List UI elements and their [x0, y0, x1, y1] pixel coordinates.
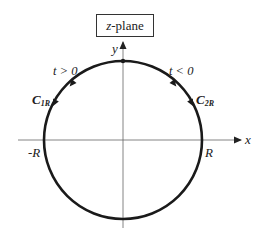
neg-R-label: -R: [28, 145, 40, 160]
y-axis-label: y: [110, 41, 118, 56]
x-axis-label: x: [244, 132, 251, 147]
condition-left-label: t > 0: [53, 64, 78, 78]
pos-R-label: R: [204, 145, 213, 160]
condition-right-label: t < 0: [169, 64, 194, 78]
contour-C1R-label: C1R: [32, 92, 51, 108]
diagram-svg: z-plane y x -R R t > 0 t < 0 C1R C2R: [0, 0, 261, 235]
title-label: z-plane: [105, 18, 144, 33]
left-arc-arrows: [50, 79, 77, 108]
top-point: [121, 59, 125, 63]
title-box: z-plane: [97, 15, 154, 37]
right-arc-arrows: [169, 79, 196, 108]
z-plane-diagram: z-plane y x -R R t > 0 t < 0 C1R C2R: [0, 0, 261, 235]
contour-C2R-label: C2R: [196, 92, 215, 108]
